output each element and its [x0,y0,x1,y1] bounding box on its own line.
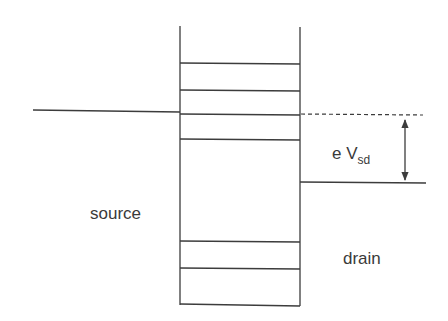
drain-fermi-level [300,182,426,183]
well-bottom [180,304,300,306]
source-label: source [90,204,141,223]
energy-level-3 [180,114,300,115]
energy-level-4 [180,139,300,140]
energy-level-6 [180,268,300,269]
quantum-dot-well [180,26,300,306]
bias-label-subscript: sd [358,153,371,167]
diagram-svg: e Vsd source drain [0,0,448,321]
source-fermi-level [33,110,180,112]
drain-label: drain [343,249,381,268]
coulomb-blockade-diagram: e Vsd source drain [0,0,448,321]
reference-dashed-line [301,114,423,115]
energy-level-1 [180,63,300,64]
bias-label: e Vsd [332,144,370,167]
energy-levels [180,63,300,269]
energy-level-2 [180,90,300,91]
bias-label-prefix: e V [332,144,358,163]
energy-level-5 [180,241,300,242]
